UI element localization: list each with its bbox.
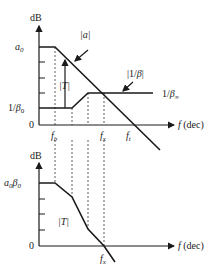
bottom-x-label: f (dec): [178, 240, 204, 252]
top-plot: dB f (dec) a0 1/β0 0 |T| |a| |1/β| 1/β∞ …: [8, 12, 204, 150]
inv-beta-label: |1/β|: [127, 68, 144, 79]
fb-label: fb: [51, 130, 58, 143]
svg-text:f (dec): f (dec): [178, 119, 204, 131]
fx-label: fx: [100, 130, 107, 143]
a0-label: a0: [15, 41, 24, 54]
a0beta0-label: a0β0: [4, 177, 21, 190]
top-y-label: dB: [30, 12, 42, 23]
svg-text:f (dec): f (dec): [178, 240, 204, 252]
a-label: |a|: [80, 29, 91, 40]
top-zero-label: 0: [29, 119, 34, 130]
top-x-label: f (dec): [178, 119, 204, 131]
loop-gain-curve: [39, 183, 115, 262]
bottom-zero-label: 0: [29, 240, 34, 251]
T-label: |T|: [59, 80, 70, 91]
inv-beta0-label: 1/β0: [8, 102, 25, 115]
bottom-fx-label: fx: [100, 253, 107, 266]
ft-label: ft: [126, 130, 132, 143]
bottom-plot: dB f (dec) a0β0 0 |T| fx: [4, 140, 204, 266]
bottom-y-label: dB: [30, 150, 42, 161]
inv-beta-inf-label: 1/β∞: [162, 88, 179, 100]
bottom-T-label: |T|: [58, 216, 69, 227]
inverse-feedback-curve: [39, 93, 153, 108]
bode-diagram: dB f (dec) a0 1/β0 0 |T| |a| |1/β| 1/β∞ …: [0, 0, 219, 276]
